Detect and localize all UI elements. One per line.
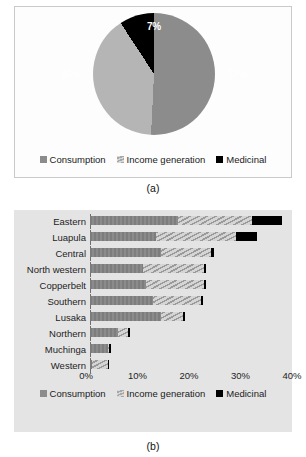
bar-segment-income-generation	[146, 280, 204, 289]
legend-item-consumption: Consumption	[40, 154, 106, 165]
bar-category-label: Central	[14, 249, 90, 259]
legend-item-income-generation: Income generation	[117, 154, 206, 165]
bar-track	[90, 294, 292, 309]
bar-track	[90, 326, 292, 341]
legend-panel-b: Consumption Income generation Medicinal	[14, 388, 292, 399]
bar-segment-consumption	[90, 280, 146, 289]
legend-swatch-medicinal-icon	[216, 156, 223, 163]
legend-swatch-medicinal-icon	[216, 390, 223, 397]
bar-segment-income-generation	[92, 360, 108, 369]
legend-panel-a: Consumption Income generation Medicinal	[15, 154, 291, 165]
pie-label-consumption: 53%	[228, 69, 247, 80]
bar-category-label: Eastern	[14, 217, 90, 227]
bar-segment-income-generation	[161, 248, 212, 257]
bar-segment-income-generation	[161, 312, 184, 321]
legend-item-medicinal: Medicinal	[216, 154, 266, 165]
x-tick-label: 30%	[231, 370, 250, 381]
bar-segment-medicinal	[204, 264, 206, 273]
bar-segment-income-generation	[178, 216, 251, 225]
pie-label-income-generation: 40%	[61, 69, 80, 80]
legend-label-income-generation: Income generation	[127, 388, 206, 399]
bar-row: Northern	[14, 326, 292, 341]
legend-swatch-income-generation-icon	[117, 390, 124, 397]
bar-segment-income-generation	[118, 328, 128, 337]
bar-category-label: Western	[14, 361, 90, 371]
bar-segment-income-generation	[153, 296, 201, 305]
x-tick-label: 20%	[179, 370, 198, 381]
bar-segment-consumption	[90, 232, 156, 241]
x-axis-ticks: 0%10%20%30%40%	[86, 370, 292, 384]
bar-plot-area: EasternLuapulaCentralNorth westernCopper…	[14, 210, 292, 385]
bar-track	[90, 230, 292, 245]
bar-segment-consumption	[90, 216, 178, 225]
figure-container: 53% 40% 7% Consumption Income generation…	[0, 0, 306, 457]
bar-segment-medicinal	[201, 296, 203, 305]
legend-swatch-consumption-icon	[40, 156, 47, 163]
bar-segment-consumption	[90, 328, 118, 337]
bar-row: North western	[14, 262, 292, 277]
pie-plot-area: 53% 40% 7%	[15, 11, 293, 139]
legend-label-consumption: Consumption	[50, 388, 106, 399]
bar-category-label: Northern	[14, 329, 90, 339]
bar-segment-income-generation	[156, 232, 237, 241]
bar-segment-medicinal	[236, 232, 256, 241]
bar-segment-consumption	[90, 344, 108, 353]
bar-segment-medicinal	[108, 360, 109, 369]
legend-label-medicinal: Medicinal	[226, 388, 266, 399]
legend-swatch-income-generation-icon	[117, 156, 124, 163]
caption-panel-a: (a)	[0, 182, 306, 194]
pie-label-medicinal: 7%	[147, 21, 161, 32]
legend-label-consumption: Consumption	[50, 154, 106, 165]
panel-b-bar-chart: EasternLuapulaCentralNorth westernCopper…	[14, 210, 292, 432]
bar-segment-consumption	[90, 248, 161, 257]
bar-segment-medicinal	[109, 344, 111, 353]
bar-segment-medicinal	[128, 328, 131, 337]
bar-row: Southern	[14, 294, 292, 309]
x-tick-label: 0%	[79, 370, 93, 381]
legend-label-medicinal: Medicinal	[226, 154, 266, 165]
bar-segment-medicinal	[183, 312, 185, 321]
bar-category-label: North western	[14, 265, 90, 275]
caption-panel-b: (b)	[0, 440, 306, 452]
bar-category-label: Copperbelt	[14, 281, 90, 291]
bar-row: Muchinga	[14, 342, 292, 357]
bar-row: Lusaka	[14, 310, 292, 325]
bar-category-label: Southern	[14, 297, 90, 307]
bar-track	[90, 278, 292, 293]
legend-swatch-consumption-icon	[40, 390, 47, 397]
bar-row: Luapula	[14, 230, 292, 245]
bar-segment-medicinal	[211, 248, 214, 257]
bar-track	[90, 310, 292, 325]
bar-track	[90, 246, 292, 261]
bar-row: Central	[14, 246, 292, 261]
bar-track	[90, 214, 292, 229]
bar-track	[90, 262, 292, 277]
bar-segment-consumption	[90, 296, 153, 305]
bar-rows: EasternLuapulaCentralNorth westernCopper…	[14, 214, 292, 374]
bar-category-label: Luapula	[14, 233, 90, 243]
bar-segment-medicinal	[252, 216, 282, 225]
x-tick-label: 40%	[282, 370, 301, 381]
bar-segment-income-generation	[143, 264, 204, 273]
legend-item-consumption: Consumption	[40, 388, 106, 399]
x-tick-label: 10%	[128, 370, 147, 381]
bar-category-label: Muchinga	[14, 345, 90, 355]
bar-category-label: Lusaka	[14, 313, 90, 323]
legend-item-income-generation: Income generation	[117, 388, 206, 399]
legend-label-income-generation: Income generation	[127, 154, 206, 165]
bar-track	[90, 342, 292, 357]
bar-segment-consumption	[90, 264, 143, 273]
bar-row: Eastern	[14, 214, 292, 229]
legend-item-medicinal: Medicinal	[216, 388, 266, 399]
panel-a-pie-chart: 53% 40% 7% Consumption Income generation…	[14, 6, 292, 178]
bar-segment-consumption	[90, 312, 161, 321]
bar-segment-medicinal	[204, 280, 206, 289]
bar-row: Copperbelt	[14, 278, 292, 293]
